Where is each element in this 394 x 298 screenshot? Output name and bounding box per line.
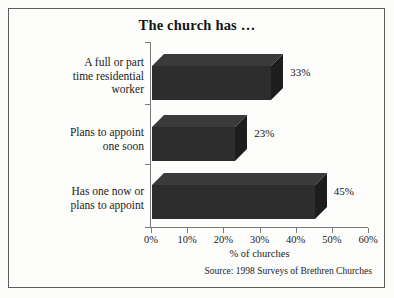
category-label: A full or parttime residentialworker xyxy=(14,56,144,97)
category-label: Has one now orplans to appoint xyxy=(14,185,144,212)
value-tick xyxy=(223,228,224,233)
category-label-line: A full or part xyxy=(14,56,144,70)
bar-front-face xyxy=(152,127,235,161)
category-tick xyxy=(145,42,151,43)
value-tick xyxy=(296,228,297,233)
category-label-line: time residential xyxy=(14,70,144,84)
category-label: Plans to appointone soon xyxy=(14,126,144,153)
category-label-line: one soon xyxy=(14,140,144,154)
category-label-line: worker xyxy=(14,83,144,97)
value-tick xyxy=(260,228,261,233)
bar-top-face xyxy=(152,115,247,127)
bar xyxy=(152,173,315,207)
value-tick xyxy=(368,228,369,233)
source-note: Source: 1998 Surveys of Brethren Churche… xyxy=(204,266,372,276)
page-title: The church has … xyxy=(0,17,394,34)
category-tick xyxy=(145,164,151,165)
category-label-line: Has one now or xyxy=(14,185,144,199)
category-label-line: Plans to appoint xyxy=(14,126,144,140)
value-axis-title: % of churches xyxy=(151,248,368,259)
bar xyxy=(152,115,235,149)
bar-value-label: 23% xyxy=(254,127,274,139)
category-tick xyxy=(145,104,151,105)
bar-top-face xyxy=(152,173,327,185)
value-tick xyxy=(332,228,333,233)
value-tick xyxy=(187,228,188,233)
bar xyxy=(152,54,271,88)
bar-front-face xyxy=(152,66,271,100)
category-label-line: plans to appoint xyxy=(14,199,144,213)
bar-front-face xyxy=(152,185,315,219)
value-tick-label: 60% xyxy=(346,234,390,245)
bar-top-face xyxy=(152,54,283,66)
bar-value-label: 33% xyxy=(290,66,310,78)
bar-value-label: 45% xyxy=(334,185,354,197)
category-axis-line xyxy=(150,42,151,228)
chart-image: The church has … A full or parttime resi… xyxy=(0,0,394,298)
value-tick xyxy=(151,228,152,233)
